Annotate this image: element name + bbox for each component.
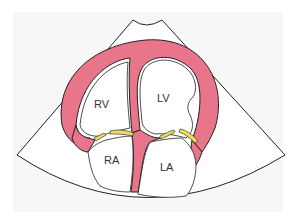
label-rv: RV (94, 98, 110, 110)
label-la: LA (160, 161, 174, 173)
heart-diagram: RV LV RA LA (0, 0, 292, 219)
label-lv: LV (157, 92, 170, 104)
label-ra: RA (104, 154, 120, 166)
